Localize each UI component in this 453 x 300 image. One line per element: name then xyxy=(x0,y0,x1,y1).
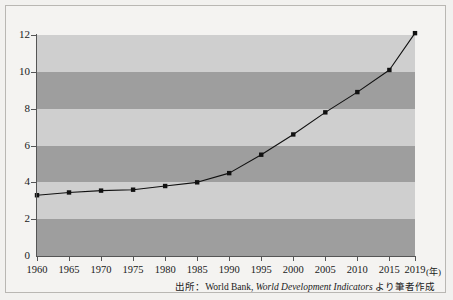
y-tick-label: 6 xyxy=(8,140,30,151)
y-tick-label: 12 xyxy=(8,29,30,40)
y-tick-mark xyxy=(31,109,37,110)
x-tick-mark xyxy=(293,256,294,261)
y-tick-mark xyxy=(31,219,37,220)
x-tick-mark xyxy=(357,256,358,261)
x-tick-mark xyxy=(325,256,326,261)
y-tick-mark xyxy=(31,182,37,183)
x-tick-mark xyxy=(133,256,134,261)
x-tick-mark xyxy=(37,256,38,261)
data-point xyxy=(291,132,295,136)
data-point xyxy=(195,180,199,184)
y-tick-label: 4 xyxy=(8,176,30,187)
x-axis-line xyxy=(36,256,416,257)
data-point xyxy=(163,184,167,188)
y-tick-mark xyxy=(31,72,37,73)
data-point xyxy=(227,171,231,175)
data-point xyxy=(387,68,391,72)
x-tick-mark xyxy=(101,256,102,261)
data-point xyxy=(67,190,71,194)
y-tick-label: 8 xyxy=(8,103,30,114)
source-prefix: 出所：World Bank, xyxy=(175,282,256,292)
data-point xyxy=(131,188,135,192)
x-tick-mark xyxy=(69,256,70,261)
x-tick-mark xyxy=(261,256,262,261)
data-point xyxy=(355,90,359,94)
y-tick-mark xyxy=(31,146,37,147)
data-line-series xyxy=(37,35,415,256)
data-point xyxy=(413,31,417,35)
data-point xyxy=(99,188,103,192)
x-tick-mark xyxy=(415,256,416,261)
y-tick-label: 10 xyxy=(8,66,30,77)
plot-area xyxy=(37,35,415,256)
source-suffix: より筆者作成 xyxy=(373,282,435,292)
source-publication: World Development Indicators xyxy=(256,282,373,292)
source-note: 出所：World Bank, World Development Indicat… xyxy=(6,279,435,293)
y-tick-label: 0 xyxy=(8,250,30,261)
x-tick-mark xyxy=(165,256,166,261)
x-axis-unit-label: (年) xyxy=(426,265,441,278)
y-tick-label: 2 xyxy=(8,213,30,224)
chart-frame: 024681012 196019651970197519801985199019… xyxy=(5,5,446,293)
x-tick-mark xyxy=(197,256,198,261)
x-tick-mark xyxy=(389,256,390,261)
data-point xyxy=(259,153,263,157)
x-tick-mark xyxy=(229,256,230,261)
data-point xyxy=(323,110,327,114)
y-tick-mark xyxy=(31,35,37,36)
y-axis-labels: 024681012 xyxy=(6,6,30,300)
